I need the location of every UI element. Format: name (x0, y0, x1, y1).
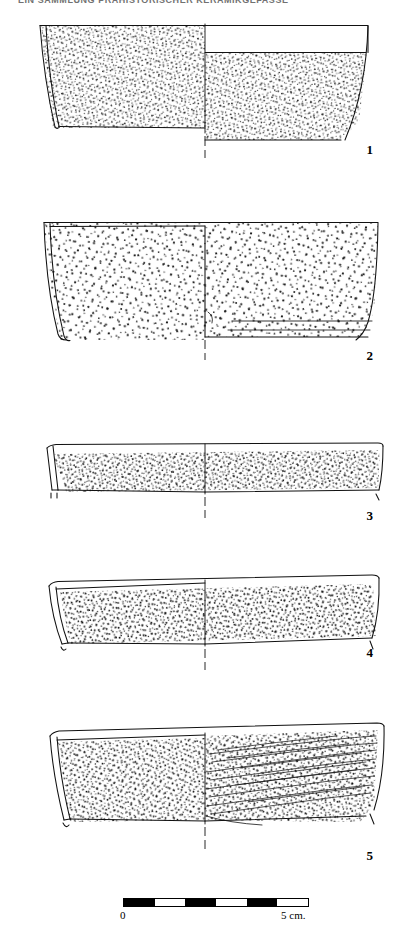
fig3-stipple (50, 448, 384, 494)
figure-1: 1 (0, 0, 410, 175)
figure-number-4: 4 (333, 645, 373, 661)
figure-number-5: 5 (333, 848, 373, 864)
fig2-stipple-left (40, 220, 208, 342)
scale-bar-segment (155, 899, 186, 906)
scale-bar-label-min: 0 (120, 909, 126, 921)
figure-2: 2 (0, 200, 410, 375)
figure-number-2: 2 (333, 348, 373, 364)
figure-5: 5 (0, 692, 410, 862)
figure-number-3: 3 (333, 508, 373, 524)
fig1-stipple-left (38, 24, 210, 132)
figure-4: 4 (0, 548, 410, 673)
scale-bar-track (123, 898, 309, 907)
scale-bar-segment (216, 899, 247, 906)
scale-bar: 0 5 cm. (0, 893, 410, 938)
scale-bar-segment (277, 899, 308, 906)
scale-bar-segment (247, 899, 278, 906)
figure-number-1: 1 (333, 142, 373, 158)
scale-bar-label-max: 5 cm. (281, 909, 305, 921)
figure-3: 3 (0, 420, 410, 540)
fig2-stipple-right (203, 220, 383, 340)
fig1-stipple-right (203, 50, 373, 144)
fig5-stipple-right (203, 728, 385, 824)
scale-bar-segment (185, 899, 216, 906)
fig4-stipple (55, 582, 381, 646)
illustration-plate: EIN SAMMLUNG PRAHISTORISCHER KERAMIKGEFA… (0, 0, 410, 944)
fig5-stipple-left (52, 734, 210, 826)
scale-bar-segment (124, 899, 155, 906)
